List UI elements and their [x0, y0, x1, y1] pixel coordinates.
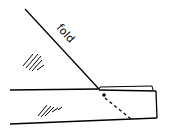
folded-flap	[99, 86, 153, 90]
strip-top-edge-right	[99, 90, 156, 91]
fold-label: fold	[54, 21, 77, 45]
hatch-upper	[23, 54, 44, 71]
dashed-crease	[105, 98, 131, 119]
strip-right-edge	[156, 91, 157, 118]
hatch-lower	[38, 105, 62, 117]
pivot-dot	[102, 93, 106, 97]
strip-top-edge	[10, 89, 99, 90]
fold-line	[25, 9, 99, 89]
fold-diagram: fold	[0, 0, 169, 134]
strip-bottom-edge	[10, 118, 157, 124]
